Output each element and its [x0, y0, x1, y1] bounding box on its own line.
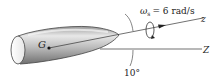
- center-of-gravity-label: G: [38, 39, 46, 50]
- spin-leader-line: [125, 14, 133, 31]
- projectile-end-face: [11, 36, 25, 64]
- body-axis-z-label: z: [200, 14, 206, 24]
- fixed-axis-Z-label: Z: [202, 45, 210, 55]
- angle-leader-line: [130, 50, 133, 66]
- spin-label: ωs= 6 rad/s: [140, 6, 195, 17]
- projectile-diagram: G z Z ωs= 6 rad/s 10°: [0, 0, 221, 84]
- spin-rotation-icon: [146, 22, 155, 39]
- z-axis-arrow-icon: [158, 25, 166, 29]
- angle-label: 10°: [124, 68, 140, 78]
